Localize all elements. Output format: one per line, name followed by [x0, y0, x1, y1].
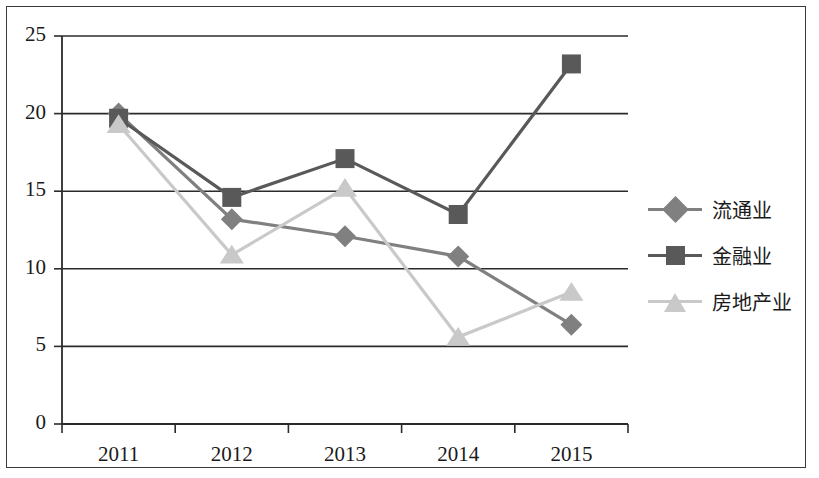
x-tick-label: 2011 [62, 442, 175, 467]
y-tick-label: 0 [0, 410, 46, 435]
marker-triangle [446, 327, 470, 346]
marker-diamond [447, 245, 469, 267]
legend-swatch [648, 196, 702, 222]
marker-square [562, 54, 581, 73]
y-tick-label: 15 [0, 177, 46, 202]
series-markers [107, 54, 584, 345]
y-tick-label: 10 [0, 255, 46, 280]
legend-swatch [648, 242, 702, 268]
legend-item[interactable]: 房地产业 [648, 278, 818, 324]
x-axis-ticks [62, 424, 628, 433]
marker-triangle [333, 178, 357, 197]
marker-diamond [334, 225, 356, 247]
chart-figure: 0510152025 20112012201320142015 流通业金融业房地… [0, 0, 819, 478]
y-tick-label: 25 [0, 22, 46, 47]
legend-item[interactable]: 流通业 [648, 186, 818, 232]
x-tick-label: 2012 [175, 442, 288, 467]
marker-triangle [559, 282, 583, 301]
marker-diamond [560, 314, 582, 336]
chart-legend: 流通业金融业房地产业 [648, 186, 818, 324]
series-lines [119, 64, 572, 337]
series-line-0 [119, 114, 572, 325]
legend-marker-square-icon [666, 246, 685, 265]
legend-label: 流通业 [712, 195, 772, 224]
legend-marker-diamond-icon [662, 196, 689, 223]
marker-square [336, 149, 355, 168]
legend-label: 金融业 [712, 241, 772, 270]
x-tick-label: 2014 [402, 442, 515, 467]
y-axis-ticks [54, 36, 62, 424]
legend-item[interactable]: 金融业 [648, 232, 818, 278]
y-tick-label: 20 [0, 100, 46, 125]
legend-marker-triangle-icon [664, 293, 686, 312]
marker-square [449, 205, 468, 224]
x-tick-label: 2013 [288, 442, 401, 467]
legend-swatch [648, 288, 702, 314]
marker-square [222, 188, 241, 207]
y-tick-label: 5 [0, 332, 46, 357]
x-tick-label: 2015 [515, 442, 628, 467]
legend-label: 房地产业 [712, 287, 792, 316]
